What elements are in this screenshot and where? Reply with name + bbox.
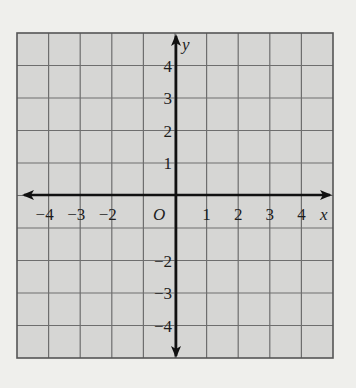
y-tick-label: −3 [154, 284, 172, 303]
x-tick-label: 2 [234, 205, 243, 224]
coordinate-plane: −4−3−21234 4321−2−3−4 O x y [0, 0, 356, 388]
x-tick-label: −3 [67, 205, 85, 224]
x-tick-label: −2 [99, 205, 117, 224]
y-axis-label: y [180, 35, 190, 54]
y-tick-label: −2 [154, 252, 172, 271]
y-tick-label: 2 [164, 122, 173, 141]
y-tick-label: 1 [164, 154, 173, 173]
x-tick-label: 1 [202, 205, 211, 224]
x-axis-label: x [319, 205, 328, 224]
x-tick-label: 3 [266, 205, 275, 224]
y-tick-label: −4 [154, 317, 173, 336]
x-tick-label: 4 [297, 205, 306, 224]
origin-label: O [153, 205, 165, 224]
y-tick-label: 4 [164, 57, 173, 76]
y-tick-label: 3 [164, 89, 173, 108]
x-tick-label: −4 [36, 205, 55, 224]
